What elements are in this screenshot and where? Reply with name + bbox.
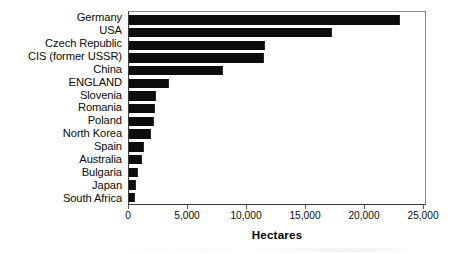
x-tick-mark [423,205,424,209]
x-tick-mark [246,205,247,209]
category-label: USA [0,24,125,37]
bar-chart: GermanyUSACzech RepublicCIS (former USSR… [0,0,455,254]
bar-row [129,26,425,39]
x-tick-mark [187,205,188,209]
bar-row [129,39,425,52]
bar [129,28,332,37]
category-label: Bulgaria [0,166,125,179]
x-tick-label: 5,000 [174,210,200,221]
category-label: Germany [0,11,125,24]
bar-row [129,77,425,90]
category-axis-labels: GermanyUSACzech RepublicCIS (former USSR… [0,11,125,205]
bar [129,117,154,126]
bar [129,15,400,24]
bars-layer [129,12,425,204]
category-label: CIS (former USSR) [0,50,125,63]
category-label: North Korea [0,127,125,140]
bar-row [129,166,425,179]
bar [129,104,155,113]
bar-row [129,141,425,154]
category-label: Australia [0,153,125,166]
category-label: Slovenia [0,89,125,102]
category-label: South Africa [0,192,125,205]
x-axis-title: Hectares [128,228,426,241]
bar-row [129,191,425,204]
bar [129,180,136,189]
category-label: Romania [0,101,125,114]
bar [129,66,223,75]
x-tick-label: 10,000 [230,210,261,221]
plot-area [128,11,426,205]
x-tick-mark [364,205,365,209]
bar-row [129,90,425,103]
bar-row [129,64,425,77]
bar [129,129,151,138]
bar [129,91,156,100]
scan-artifact [120,248,420,252]
bar [129,155,142,164]
bar [129,41,265,50]
category-label: China [0,63,125,76]
bar-row [129,52,425,65]
x-tick-mark [305,205,306,209]
category-label: Japan [0,179,125,192]
x-tick-mark [128,205,129,209]
bar [129,193,135,202]
bar-row [129,128,425,141]
x-tick-label: 0 [125,210,131,221]
bar [129,168,138,177]
bar [129,79,169,88]
x-tick-label: 15,000 [289,210,320,221]
bar-row [129,179,425,192]
category-label: Poland [0,114,125,127]
bar [129,142,144,151]
bar-row [129,153,425,166]
category-label: ENGLAND [0,76,125,89]
category-label: Spain [0,140,125,153]
bar-row [129,14,425,27]
category-label: Czech Republic [0,37,125,50]
bar-row [129,115,425,128]
x-tick-label: 25,000 [407,210,438,221]
bar [129,53,264,62]
bar-row [129,102,425,115]
x-tick-label: 20,000 [348,210,379,221]
x-axis: 05,00010,00015,00020,00025,000 [128,205,426,211]
